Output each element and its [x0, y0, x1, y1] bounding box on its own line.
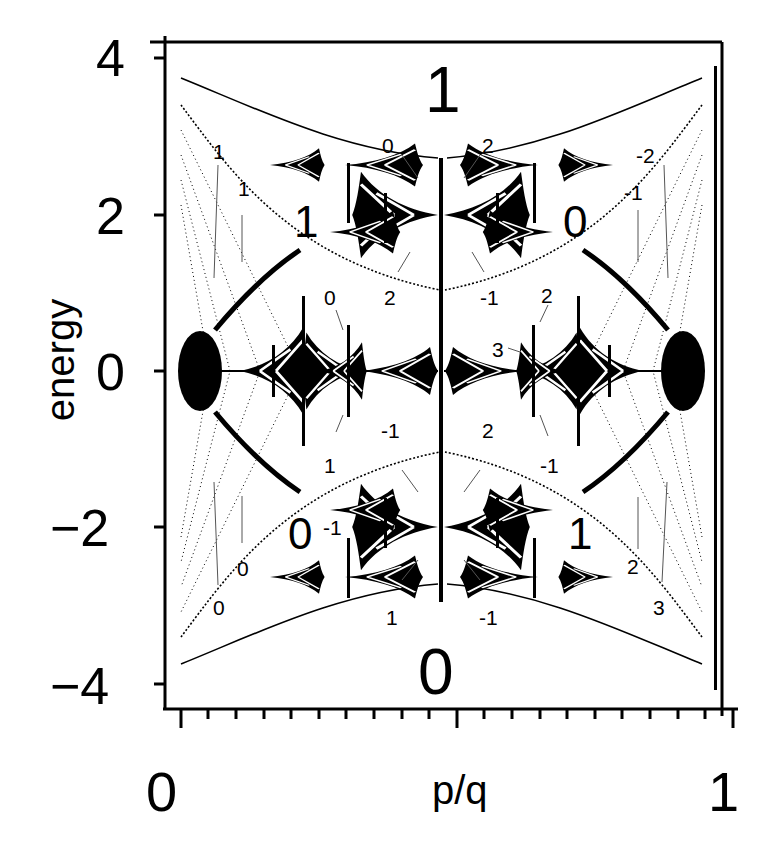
gap-label: -1 — [480, 287, 499, 308]
gap-label: 1 — [238, 178, 250, 199]
gap-label: 0 — [382, 135, 394, 156]
x-axis-ticks — [181, 709, 733, 728]
region-label-lower-left: 0 — [288, 512, 312, 556]
gap-label: -1 — [323, 517, 342, 538]
region-label-top: 1 — [425, 58, 461, 122]
y-tick-label-4: 4 — [96, 32, 125, 84]
region-label-lower-right: 1 — [568, 512, 592, 556]
gap-label: -1 — [381, 420, 400, 441]
gap-label: 2 — [627, 556, 639, 577]
y-tick-label-neg2: −2 — [50, 502, 109, 554]
y-tick-label-0: 0 — [96, 346, 125, 398]
gap-label: 3 — [492, 339, 504, 360]
gap-label: 2 — [482, 135, 494, 156]
x-tick-label-0: 0 — [146, 764, 177, 820]
y-axis-title: energy — [40, 290, 80, 430]
gap-label: -2 — [636, 145, 655, 166]
region-label-upper-left: 1 — [294, 200, 318, 244]
gap-label: 1 — [386, 607, 398, 628]
gap-label: 2 — [384, 287, 396, 308]
region-label-bottom: 0 — [418, 640, 454, 704]
x-tick-label-1: 1 — [708, 764, 739, 820]
gap-label: 2 — [482, 420, 494, 441]
gap-label: 0 — [237, 558, 249, 579]
region-label-upper-right: 0 — [563, 200, 587, 244]
gap-label: -1 — [624, 182, 643, 203]
gap-label: 1 — [324, 455, 336, 476]
gap-label: -1 — [479, 607, 498, 628]
gap-label: 1 — [213, 141, 225, 162]
y-tick-label-neg4: −4 — [50, 660, 109, 712]
plot-frame — [150, 36, 738, 716]
gap-label: 0 — [324, 287, 336, 308]
y-tick-label-2: 2 — [96, 190, 125, 242]
gap-label: 2 — [541, 285, 553, 306]
gap-label: -1 — [540, 455, 559, 476]
gap-label: 0 — [213, 597, 225, 618]
x-axis-title: p/q — [432, 770, 488, 810]
gap-label: 3 — [653, 597, 665, 618]
y-axis-ticks — [154, 58, 165, 684]
